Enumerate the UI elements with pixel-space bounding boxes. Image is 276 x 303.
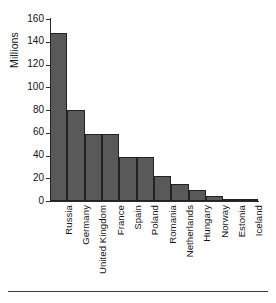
bar <box>50 33 67 201</box>
bar-chart-figure: Millions 020406080100120140160 RussiaGer… <box>0 0 276 303</box>
bar <box>119 157 136 201</box>
bar <box>206 196 223 201</box>
y-axis-tick-mark <box>46 201 50 202</box>
y-axis-tick-label: 160 <box>10 13 44 24</box>
x-axis-tick-label: Poland <box>149 205 160 235</box>
bar <box>85 134 102 201</box>
x-axis-line <box>50 201 259 202</box>
y-axis-tick-label: 140 <box>10 35 44 46</box>
y-axis-tick-label: 40 <box>10 149 44 160</box>
y-axis-tick-label: 80 <box>10 104 44 115</box>
footer-rule <box>8 291 268 292</box>
x-axis-tick-label: Germany <box>80 205 91 245</box>
bar <box>67 110 84 201</box>
x-axis-tick-label: Russia <box>63 205 74 235</box>
x-axis-tick-label: Hungary <box>201 205 212 242</box>
bar <box>189 190 206 201</box>
y-axis-tick-label: 120 <box>10 58 44 69</box>
bar <box>241 199 258 201</box>
x-axis-tick-label: Norway <box>219 205 230 238</box>
y-axis-tick-label: 20 <box>10 172 44 183</box>
x-axis-tick-label: France <box>115 205 126 235</box>
y-axis-tick-label: 0 <box>10 195 44 206</box>
bar <box>171 184 188 201</box>
bar <box>102 134 119 201</box>
x-axis-tick-label: Romania <box>167 205 178 244</box>
plot-area: 020406080100120140160 <box>50 19 258 201</box>
x-axis-tick-label: Netherlands <box>184 205 195 257</box>
bar <box>154 176 171 201</box>
y-axis-tick-label: 60 <box>10 126 44 137</box>
y-axis-tick-label: 100 <box>10 81 44 92</box>
x-axis-tick-label: Estonia <box>236 205 247 237</box>
x-axis-tick-label: Iceland <box>253 205 264 236</box>
bar <box>223 199 240 201</box>
y-axis-tick-mark <box>46 19 50 20</box>
x-axis-tick-label: United Kingdom <box>97 205 108 274</box>
bar <box>137 157 154 201</box>
x-axis-tick-label: Spain <box>132 205 143 230</box>
